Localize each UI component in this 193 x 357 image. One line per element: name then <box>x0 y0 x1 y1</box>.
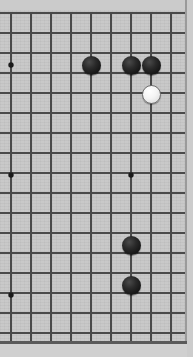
star-point-left-middle <box>8 172 13 177</box>
go-board-view[interactable] <box>0 0 193 357</box>
white-stone[interactable] <box>142 85 161 104</box>
board-grid <box>0 0 193 357</box>
star-point-left-upper <box>8 62 13 67</box>
star-point-left-lower <box>8 292 13 297</box>
black-stone[interactable] <box>142 56 161 75</box>
black-stone[interactable] <box>122 236 141 255</box>
star-point-center-middle <box>128 172 133 177</box>
board-bottom-outside <box>0 344 193 357</box>
black-stone[interactable] <box>122 56 141 75</box>
black-stone[interactable] <box>82 56 101 75</box>
board-right-outside <box>187 0 193 357</box>
black-stone[interactable] <box>122 276 141 295</box>
